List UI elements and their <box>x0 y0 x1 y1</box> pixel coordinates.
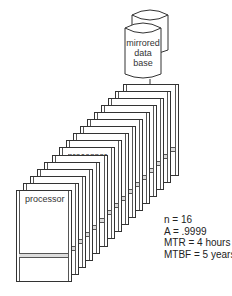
processor-label: processor <box>25 194 65 204</box>
database-label-line-1: mirrored <box>125 38 161 48</box>
database-label-line-3: base <box>125 58 161 68</box>
stat-mtr: MTR = 4 hours <box>164 237 232 249</box>
database-label-line-2: data <box>125 48 161 58</box>
stat-mtbf: MTBF = 5 years <box>164 249 232 261</box>
stat-availability: A = .9999 <box>164 226 232 238</box>
availability-stats: n = 16 A = .9999 MTR = 4 hours MTBF = 5 … <box>164 214 232 260</box>
processor-divider <box>19 253 69 258</box>
stat-n: n = 16 <box>164 214 232 226</box>
processor-card: processor <box>16 190 72 282</box>
database-label: mirrored data base <box>125 38 161 68</box>
